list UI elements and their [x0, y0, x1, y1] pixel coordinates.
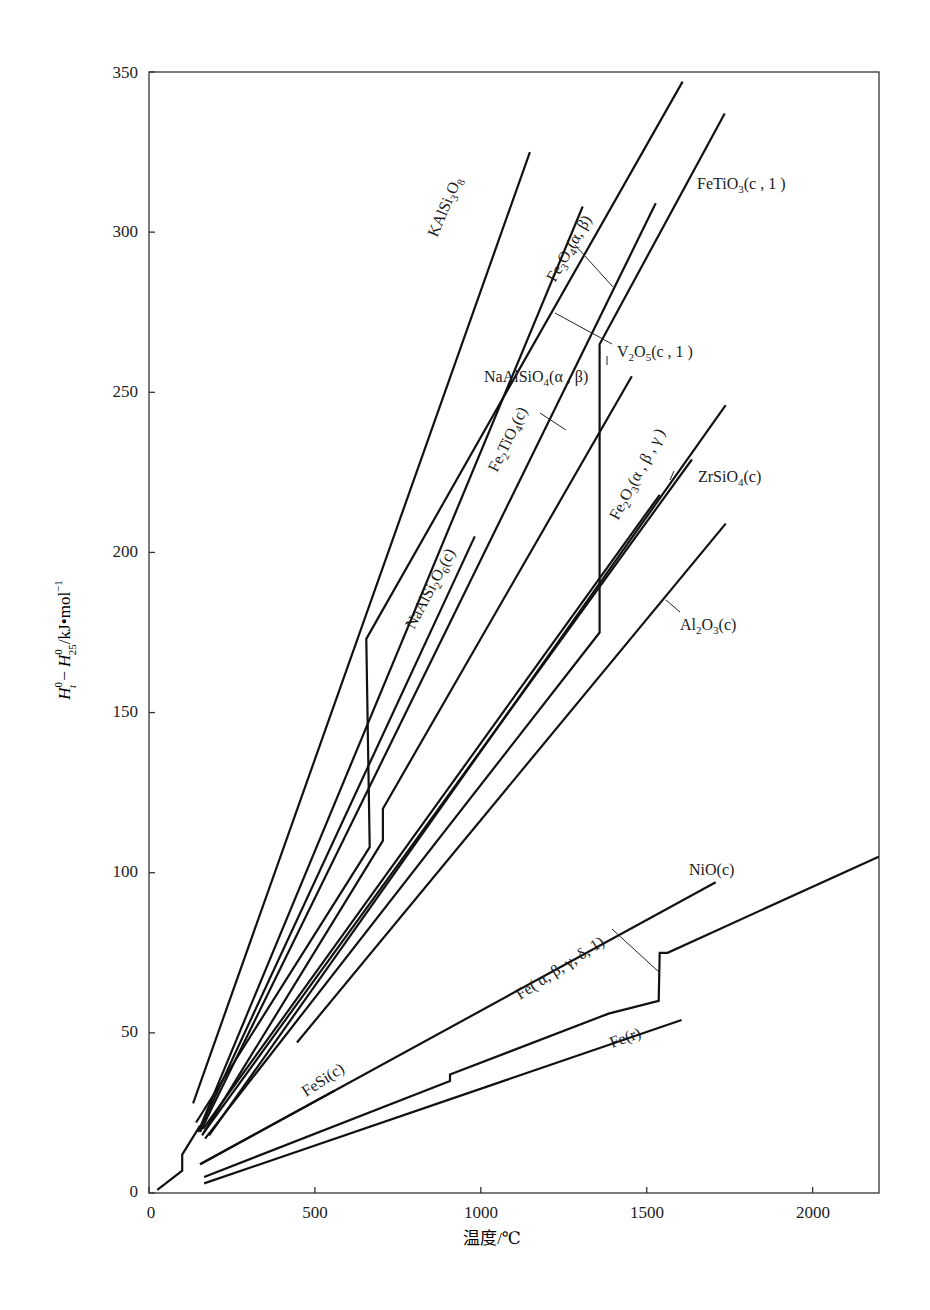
- ytick-250: 250: [113, 382, 139, 401]
- label-fe2tio4: Fe2TiO4(c): [484, 404, 533, 476]
- label-fe-r: Fe(r): [607, 1024, 643, 1052]
- x-axis-label: 温度/℃: [463, 1229, 521, 1248]
- series-line: NaAlSi2O6(c): [200, 536, 475, 1129]
- ytick-300: 300: [113, 222, 139, 241]
- series-labels: KAlSi3O8 Fe3O4(α, β) FeTiO3(c , 1 ) V2O5…: [298, 174, 785, 1101]
- ytick-50: 50: [121, 1022, 138, 1041]
- label-fesi: FeSi(c): [298, 1060, 347, 1101]
- y-tick-labels: 0 50 100 150 200 250 300 350: [113, 63, 139, 1201]
- label-kalsi3o8: KAlSi3O8: [424, 174, 467, 241]
- label-fe3o4: Fe3O4(α, β): [543, 212, 597, 286]
- xtick-0: 0: [147, 1203, 156, 1222]
- xtick-1500: 1500: [630, 1203, 664, 1222]
- svg-text:H0t − H025/kJ•mol−1: H0t − H025/kJ•mol−1: [52, 580, 78, 701]
- xtick-500: 500: [302, 1203, 328, 1222]
- series-line: unlabeled: [209, 405, 726, 1135]
- label-nio: NiO(c): [689, 861, 734, 879]
- ytick-100: 100: [113, 862, 139, 881]
- ytick-200: 200: [113, 542, 139, 561]
- series-layer: KAlSi3O8Fe3O4(α, β)NaAlSi2O6(c)Fe2TiO4(c…: [157, 82, 878, 1190]
- xtick-1000: 1000: [464, 1203, 498, 1222]
- series-line: Fe(α, β, γ, δ, 1): [204, 857, 879, 1177]
- xtick-2000: 2000: [796, 1203, 830, 1222]
- series-line: low-T segment: [157, 1126, 200, 1190]
- label-fetio3: FeTiO3(c , 1 ): [697, 175, 785, 195]
- ytick-150: 150: [113, 702, 139, 721]
- series-line: NaAlSiO4(α, β): [202, 376, 632, 1135]
- y-axis-label: H0t − H025/kJ•mol−1: [52, 580, 78, 701]
- enthalpy-chart: KAlSi3O8Fe3O4(α, β)NaAlSi2O6(c)Fe2TiO4(c…: [0, 0, 930, 1310]
- series-line: KAlSi3O8: [193, 152, 530, 1103]
- label-zrsio4: ZrSiO4(c): [698, 468, 761, 488]
- label-naalsio4: NaAlSiO4(α , β): [484, 368, 588, 388]
- label-fe: Fe( α, β, γ, δ, 1): [512, 933, 607, 1004]
- label-al2o3: Al2O3(c): [680, 616, 736, 636]
- x-tick-labels: 0 500 1000 1500 2000: [147, 1203, 830, 1222]
- label-fe2o3: Fe2O3(α , β , γ ): [606, 425, 671, 523]
- ytick-0: 0: [130, 1182, 139, 1201]
- series-line: V2O5(c, 1): [200, 203, 656, 1132]
- ytick-350: 350: [113, 63, 139, 82]
- label-v2o5: V2O5(c , 1 ): [617, 343, 693, 363]
